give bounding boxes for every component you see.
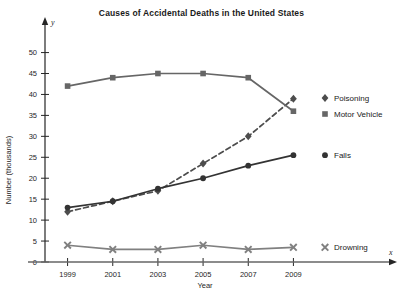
data-point-circle-marker (65, 205, 71, 211)
data-point-diamond-marker (200, 160, 207, 168)
legend-item-falls: Falls (322, 151, 351, 160)
legend-label: Poisoning (334, 94, 369, 103)
data-point-diamond-marker (322, 94, 329, 102)
series-line (68, 99, 294, 212)
y-tick-label: 40 (29, 90, 37, 99)
chart-legend: PoisoningMotor VehicleFallsDrowning (322, 94, 383, 252)
legend-item-motor-vehicle: Motor Vehicle (322, 110, 383, 119)
chart-container: Causes of Accidental Deaths in the Unite… (0, 0, 403, 293)
y-axis-ticks: 05101520253035404550 (29, 48, 49, 266)
series-poisoning (64, 95, 297, 216)
y-axis-label: Number (thousands) (4, 135, 13, 204)
x-axis-label: Year (197, 281, 213, 290)
data-series-layer (64, 71, 297, 253)
y-tick-label: 45 (29, 69, 37, 78)
data-point-circle-marker (322, 152, 328, 158)
y-tick-label: 15 (29, 195, 37, 204)
data-point-x-marker (322, 244, 329, 251)
x-axis-arrowhead (389, 259, 397, 265)
legend-label: Motor Vehicle (334, 110, 383, 119)
y-tick-label: 35 (29, 111, 37, 120)
chart-canvas: 05101520253035404550 1999200120032005200… (0, 0, 403, 293)
legend-label: Falls (334, 151, 351, 160)
data-point-circle-marker (155, 186, 161, 192)
x-tick-label: 2007 (240, 270, 257, 279)
data-point-circle-marker (110, 198, 116, 204)
data-point-circle-marker (245, 163, 251, 169)
series-line (68, 155, 294, 207)
data-point-diamond-marker (290, 95, 297, 103)
legend-label: Drowning (334, 243, 368, 252)
data-point-circle-marker (200, 175, 206, 181)
legend-item-poisoning: Poisoning (322, 94, 370, 103)
y-axis-arrowhead (42, 17, 48, 25)
series-falls (65, 152, 297, 210)
x-tick-label: 1999 (59, 270, 76, 279)
data-point-square-marker (65, 83, 71, 89)
x-tick-label: 2009 (285, 270, 302, 279)
data-point-square-marker (245, 75, 251, 81)
x-axis-symbol: x (388, 248, 393, 257)
legend-item-drowning: Drowning (322, 243, 368, 252)
data-point-square-marker (200, 71, 206, 77)
y-tick-label: 50 (29, 48, 37, 57)
x-axis-ticks: 199920012003200520072009 (59, 258, 302, 279)
data-point-square-marker (110, 75, 116, 81)
y-tick-label: 30 (29, 132, 37, 141)
y-tick-label: 20 (29, 174, 37, 183)
series-line (68, 74, 294, 112)
data-point-circle-marker (291, 152, 297, 158)
x-tick-label: 2005 (195, 270, 212, 279)
series-line (68, 245, 294, 249)
y-axis-symbol: y (50, 18, 55, 27)
y-tick-label: 25 (29, 153, 37, 162)
series-drowning (64, 242, 296, 253)
x-tick-label: 2003 (150, 270, 167, 279)
data-point-square-marker (291, 108, 297, 114)
data-point-square-marker (322, 111, 328, 117)
series-motor-vehicle (65, 71, 296, 114)
y-tick-label: 5 (33, 237, 37, 246)
x-tick-label: 2001 (104, 270, 121, 279)
data-point-square-marker (155, 71, 161, 77)
y-tick-label: 10 (29, 216, 37, 225)
